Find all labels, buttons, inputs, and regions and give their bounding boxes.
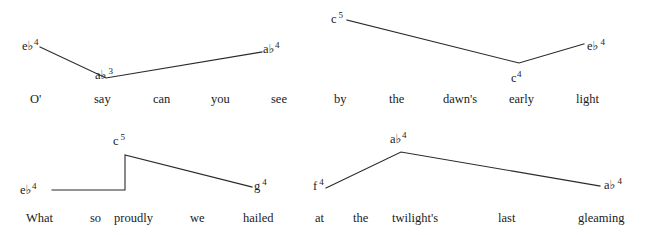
pitch-contour-line [52, 155, 252, 190]
note-label: a♭4 [604, 177, 622, 192]
lyric-word: can [153, 93, 170, 106]
lyric-word: we [190, 212, 205, 225]
lyric-word: dawn's [443, 93, 477, 106]
note-octave: 4 [598, 37, 605, 47]
lyric-word: at [315, 212, 324, 225]
note-octave: 4 [31, 181, 36, 191]
lyric-word: you [211, 93, 230, 106]
note-label: e♭4 [22, 38, 38, 53]
note-label: a♭3 [95, 67, 113, 82]
lyric-word: early [509, 93, 534, 106]
pitch-contour-line [40, 47, 262, 78]
note-octave: 4 [615, 176, 622, 186]
note-octave: 4 [33, 37, 38, 47]
note-label: e♭4 [587, 38, 605, 53]
note-pitch: c [511, 71, 517, 85]
note-octave: 5 [337, 10, 344, 20]
lyric-word: say [94, 93, 111, 106]
lyric-word: so [90, 212, 101, 225]
note-label: c4 [511, 70, 522, 85]
pitch-contour-line [326, 152, 600, 188]
note-octave: 4 [517, 69, 522, 79]
lyric-word: hailed [243, 212, 274, 225]
note-octave: 4 [401, 130, 406, 140]
note-label: c5 [331, 11, 343, 26]
pitch-contour-figure: e♭4a♭3a♭4c5c4e♭4e♭4c5g4f4a♭4a♭4 O'saycan… [0, 0, 657, 235]
note-label: a♭4 [390, 131, 406, 146]
note-pitch: c [113, 134, 119, 148]
lyric-word: gleaming [578, 212, 625, 225]
note-octave: 5 [119, 132, 126, 142]
contour-lines-layer [0, 0, 657, 235]
lyric-word: light [576, 93, 599, 106]
note-octave: 4 [260, 177, 267, 187]
lyric-word: What [26, 212, 53, 225]
note-pitch: c [331, 12, 337, 26]
lyric-word: proudly [114, 212, 153, 225]
note-label: a♭4 [263, 41, 279, 56]
lyric-word: the [389, 93, 404, 106]
lyric-word: the [353, 212, 368, 225]
note-label: g4 [254, 178, 267, 193]
note-octave: 4 [274, 40, 279, 50]
note-label: f4 [313, 178, 324, 193]
lyric-word: O' [30, 93, 41, 106]
note-octave: 4 [317, 177, 324, 187]
note-label: e♭4 [20, 182, 36, 197]
lyric-word: last [498, 212, 515, 225]
note-label: c5 [113, 133, 125, 148]
pitch-contour-line [347, 20, 584, 63]
lyric-word: see [271, 93, 287, 106]
lyric-word: twilight's [392, 212, 438, 225]
lyric-word: by [334, 93, 347, 106]
note-octave: 3 [106, 66, 113, 76]
